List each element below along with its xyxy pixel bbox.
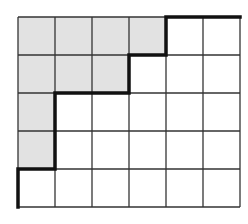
shaded-cell [18, 55, 55, 93]
shaded-cell [18, 93, 55, 131]
staircase-grid-diagram [0, 0, 248, 224]
shaded-cell [18, 17, 55, 55]
shaded-cell [55, 17, 92, 55]
shaded-cell [18, 131, 55, 169]
shaded-cell [92, 55, 129, 93]
shaded-cell [55, 55, 92, 93]
shaded-cell [92, 17, 129, 55]
shaded-cell [129, 17, 166, 55]
